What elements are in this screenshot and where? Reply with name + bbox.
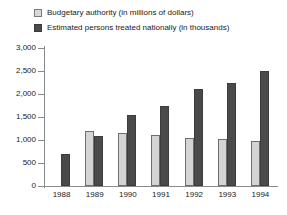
bar-group-1990 — [110, 48, 143, 186]
bar-group-1992 — [177, 48, 210, 186]
y-tick-label: 2,500 — [0, 66, 36, 75]
x-label-1992: 1992 — [177, 190, 210, 199]
y-tick-label: 1,500 — [0, 112, 36, 121]
legend-item-persons-treated: Estimated persons treated nationally (in… — [34, 21, 229, 34]
x-label-1990: 1990 — [110, 190, 143, 199]
x-axis-labels: 1988198919901991199219931994 — [44, 190, 276, 199]
bar-1990-budgetary — [118, 133, 127, 186]
y-tick-label: 2,000 — [0, 89, 36, 98]
x-label-1989: 1989 — [77, 190, 110, 199]
bar-groups — [44, 48, 276, 186]
bar-1994-budgetary — [251, 141, 260, 186]
x-label-1994: 1994 — [243, 190, 276, 199]
y-tick-label: 500 — [0, 158, 36, 167]
y-tick-label: 1,000 — [0, 135, 36, 144]
bar-group-1989 — [77, 48, 110, 186]
chart-legend: Budgetary authority (in millions of doll… — [34, 6, 229, 36]
x-label-1991: 1991 — [143, 190, 176, 199]
legend-label-budgetary-authority: Budgetary authority (in millions of doll… — [47, 8, 194, 18]
bar-chart: Budgetary authority (in millions of doll… — [0, 0, 287, 215]
bar-1991-budgetary — [151, 135, 160, 186]
bar-1992-persons — [194, 89, 203, 186]
legend-item-budgetary-authority: Budgetary authority (in millions of doll… — [34, 6, 229, 19]
bar-1994-persons — [260, 71, 269, 186]
bar-group-1988 — [44, 48, 77, 186]
y-tick-label: 0 — [0, 181, 36, 190]
bar-1993-budgetary — [218, 139, 227, 186]
bar-group-1993 — [210, 48, 243, 186]
bar-1993-persons — [227, 83, 236, 187]
bar-1988-persons — [61, 154, 70, 186]
bar-1990-persons — [127, 115, 136, 186]
bar-1991-persons — [160, 106, 169, 187]
bar-1989-budgetary — [85, 131, 94, 186]
x-axis-line — [44, 186, 278, 187]
legend-swatch-light — [34, 9, 42, 17]
bar-group-1991 — [143, 48, 176, 186]
bar-group-1994 — [243, 48, 276, 186]
legend-label-persons-treated: Estimated persons treated nationally (in… — [47, 23, 229, 33]
x-label-1993: 1993 — [210, 190, 243, 199]
x-label-1988: 1988 — [44, 190, 77, 199]
y-tick-0 — [38, 186, 45, 187]
bar-1992-budgetary — [185, 138, 194, 186]
y-tick-label: 3,000 — [0, 43, 36, 52]
plot-area — [44, 48, 276, 186]
legend-swatch-dark — [34, 24, 42, 32]
bar-1989-persons — [94, 136, 103, 186]
